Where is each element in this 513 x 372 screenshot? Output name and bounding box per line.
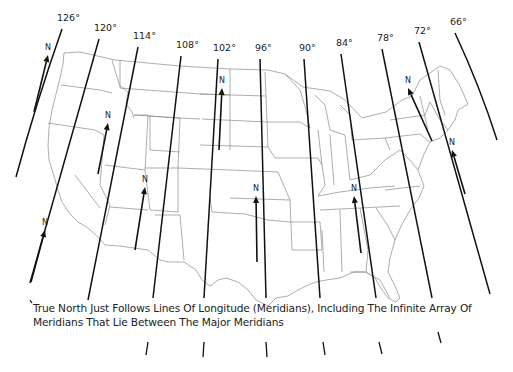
north-label: N (405, 76, 411, 85)
meridian-label: 108° (176, 39, 199, 50)
north-arrow-icon: N (405, 76, 432, 141)
caption-line-2: Meridians That Lie Between The Major Mer… (33, 316, 503, 330)
meridian-label: 84° (336, 37, 353, 48)
north-label: N (253, 184, 259, 193)
us-state-borders (48, 52, 468, 306)
north-arrow-icon: N (98, 111, 111, 174)
meridian-extension (323, 342, 325, 355)
north-label: N (351, 184, 357, 193)
meridian-label: 102° (213, 42, 236, 53)
meridian-line (341, 54, 376, 298)
meridian-line (204, 59, 218, 298)
north-label: N (45, 43, 51, 52)
meridian-extension (379, 342, 382, 354)
meridian-label: 90° (299, 42, 316, 53)
meridian-line (304, 59, 320, 298)
meridian-line (88, 47, 138, 300)
meridian-degree-labels: 126°120°114°108°102°96°90°84°78°72°66° (57, 12, 467, 53)
north-arrow-icon: N (351, 184, 361, 253)
meridian-extension (438, 332, 441, 343)
north-arrow-icon: N (253, 184, 259, 262)
north-arrows: NNNNNNNNN (31, 43, 465, 282)
meridian-label: 114° (133, 30, 156, 41)
north-label: N (449, 138, 455, 147)
meridian-line (419, 42, 490, 294)
north-arrow-icon: N (449, 138, 465, 194)
meridian-label: 126° (57, 12, 80, 23)
meridian-label: 120° (94, 22, 117, 33)
meridian-label: 78° (377, 32, 394, 43)
north-label: N (142, 175, 148, 184)
meridian-extension (146, 342, 148, 355)
meridian-extension (30, 300, 32, 303)
north-arrow-icon: N (135, 175, 148, 250)
meridian-line (260, 59, 266, 298)
meridian-label: 72° (414, 25, 431, 36)
north-arrow-icon: N (34, 43, 51, 112)
meridian-line (16, 29, 62, 177)
meridian-label: 66° (450, 16, 467, 27)
north-label: N (105, 111, 111, 120)
north-label: N (219, 76, 225, 85)
map-caption: True North Just Follows Lines Of Longitu… (33, 302, 503, 329)
meridian-label: 96° (255, 42, 272, 53)
caption-line-1: True North Just Follows Lines Of Longitu… (33, 302, 503, 316)
meridian-extension (203, 342, 204, 357)
north-label: N (42, 218, 48, 227)
north-arrow-icon: N (219, 76, 225, 150)
meridian-line (455, 33, 497, 140)
meridian-extension (266, 342, 267, 357)
